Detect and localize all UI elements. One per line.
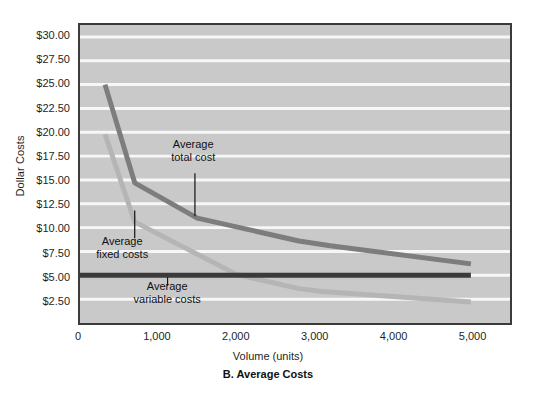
y-axis-tick-label: $25.00	[0, 77, 70, 89]
annotation-average-total-cost: Averagetotal cost	[171, 138, 215, 164]
x-axis-tick-label: 4,000	[380, 330, 408, 342]
y-axis-tick-label: $20.00	[0, 126, 70, 138]
y-axis-tick-label: $2.50	[0, 295, 70, 307]
annotation-line-2: total cost	[171, 151, 215, 164]
y-axis-tick-label: $22.50	[0, 102, 70, 114]
y-axis-tick-label: $10.00	[0, 222, 70, 234]
annotation-line-1: Average	[147, 280, 188, 292]
x-axis-tick-label: 5,000	[459, 330, 487, 342]
annotation-average-variable-costs: Averagevariable costs	[134, 280, 201, 306]
plot-svg	[80, 25, 510, 323]
annotation-average-fixed-costs: Averagefixed costs	[96, 235, 148, 261]
x-axis-title: Volume (units)	[0, 350, 536, 362]
figure-average-costs: Dollar Costs $2.50$5.00$7.50$10.00$12.50…	[0, 0, 536, 396]
annotation-line-1: Average	[102, 235, 143, 247]
x-axis-tick-label: 0	[75, 330, 81, 342]
x-axis-tick-label: 3,000	[301, 330, 329, 342]
y-axis-tick-label: $17.50	[0, 150, 70, 162]
x-axis-tick-label: 1,000	[143, 330, 171, 342]
annotation-line-1: Average	[173, 138, 214, 150]
x-axis-tick-labels: 01,0002,0003,0004,0005,000	[0, 330, 536, 346]
annotation-line-2: variable costs	[134, 293, 201, 306]
data-series	[80, 85, 471, 302]
y-axis-tick-label: $12.50	[0, 198, 70, 210]
y-axis-tick-label: $15.00	[0, 174, 70, 186]
y-axis-tick-label: $5.00	[0, 271, 70, 283]
figure-caption: B. Average Costs	[0, 368, 536, 380]
y-axis-tick-label: $27.50	[0, 53, 70, 65]
y-axis-tick-labels: $2.50$5.00$7.50$10.00$12.50$15.00$17.50$…	[0, 23, 74, 325]
y-axis-tick-label: $30.00	[0, 29, 70, 41]
annotation-line-2: fixed costs	[96, 248, 148, 261]
y-axis-tick-label: $7.50	[0, 247, 70, 259]
x-axis-tick-label: 2,000	[222, 330, 250, 342]
